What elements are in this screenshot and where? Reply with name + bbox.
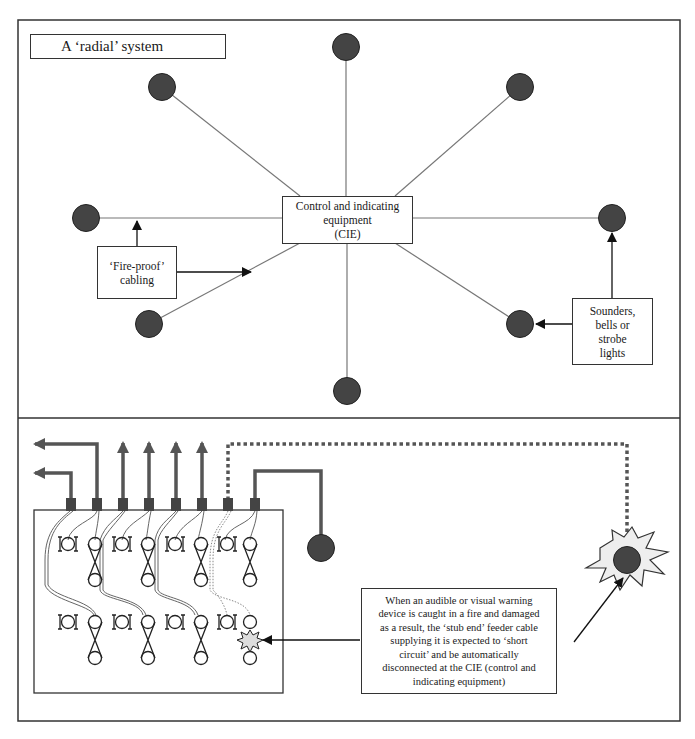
pointer-to-fire-device bbox=[574, 578, 623, 642]
fault-line-4: supplying it is expected to ‘short bbox=[378, 634, 539, 648]
device-top-left bbox=[149, 74, 176, 101]
device-top-right bbox=[507, 74, 534, 101]
device-left bbox=[73, 205, 100, 232]
fault-line-2: device is caught in a fire and damaged bbox=[378, 607, 539, 621]
device-stub bbox=[308, 535, 335, 562]
fault-line-1: When an audible or visual warning bbox=[378, 594, 539, 608]
fault-description-box: When an audible or visual warning device… bbox=[361, 588, 557, 694]
device-right bbox=[599, 205, 626, 232]
device-bottom-left bbox=[136, 311, 163, 338]
cie-box: Control and indicating equipment (CIE) bbox=[282, 196, 413, 244]
device-bottom bbox=[334, 378, 361, 405]
fireproof-line-1: ‘Fire-proof’ bbox=[109, 259, 165, 273]
fault-line-5: circuit’ and be automatically bbox=[378, 648, 539, 662]
sounders-line-1: Sounders, bbox=[590, 304, 636, 318]
cie-line-2: equipment bbox=[296, 213, 399, 227]
radial-system-diagram bbox=[0, 0, 695, 739]
fault-line-3: as a result, the ‘stub end’ feeder cable bbox=[378, 621, 539, 635]
sounders-line-4: lights bbox=[590, 346, 636, 360]
diagram-title: A ‘radial’ system bbox=[30, 34, 226, 59]
device-top bbox=[333, 34, 360, 61]
cie-line-3: (CIE) bbox=[296, 227, 399, 241]
device-bottom-right bbox=[507, 311, 534, 338]
sounders-line-2: bells or bbox=[590, 318, 636, 332]
sounders-line-3: strobe bbox=[590, 332, 636, 346]
fireproof-line-2: cabling bbox=[109, 273, 165, 287]
device-in-fire bbox=[614, 547, 641, 574]
fireproof-cabling-box: ‘Fire-proof’ cabling bbox=[97, 246, 177, 299]
sounders-box: Sounders, bells or strobe lights bbox=[572, 298, 653, 365]
cie-line-1: Control and indicating bbox=[296, 199, 399, 213]
fault-line-7: indicating equipment) bbox=[378, 675, 539, 689]
damaged-feeder-cable bbox=[228, 444, 627, 547]
fault-line-6: disconnected at the CIE (control and bbox=[378, 661, 539, 675]
terminals bbox=[66, 498, 260, 511]
